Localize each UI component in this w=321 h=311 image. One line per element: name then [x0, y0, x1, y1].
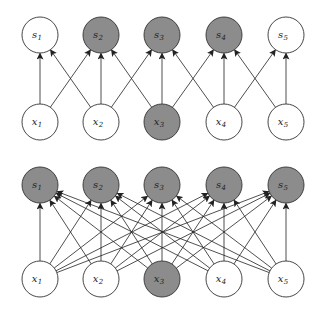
- node-x5: x5: [268, 261, 304, 297]
- node-s1: s1: [22, 17, 58, 53]
- sparse-connectivity-panel: [40, 50, 286, 107]
- node-s3: s3: [144, 167, 180, 203]
- nodes-layer: s1s2s3s4s5x1x2x3x4x5s1s2s3s4s5x1x2x3x4x5: [22, 17, 304, 297]
- node-s4: s4: [206, 17, 242, 53]
- node-s4: s4: [206, 167, 242, 203]
- node-x5: x5: [268, 104, 304, 140]
- node-s1: s1: [22, 167, 58, 203]
- node-x3: x3: [144, 104, 180, 140]
- node-x1: x1: [22, 104, 58, 140]
- node-x2: x2: [83, 104, 119, 140]
- node-s2: s2: [83, 17, 119, 53]
- node-s5: s5: [268, 17, 304, 53]
- sparse-connectivity-panel-nodes: s1s2s3s4s5x1x2x3x4x5: [22, 17, 304, 140]
- connectivity-diagram: s1s2s3s4s5x1x2x3x4x5s1s2s3s4s5x1x2x3x4x5: [0, 0, 321, 311]
- edges-layer: [40, 50, 286, 273]
- node-x2: x2: [83, 261, 119, 297]
- node-x4: x4: [206, 104, 242, 140]
- node-s3: s3: [144, 17, 180, 53]
- node-s5: s5: [268, 167, 304, 203]
- node-x4: x4: [206, 261, 242, 297]
- node-x3: x3: [144, 261, 180, 297]
- node-x1: x1: [22, 261, 58, 297]
- full-connectivity-panel: [40, 192, 286, 273]
- node-s2: s2: [83, 167, 119, 203]
